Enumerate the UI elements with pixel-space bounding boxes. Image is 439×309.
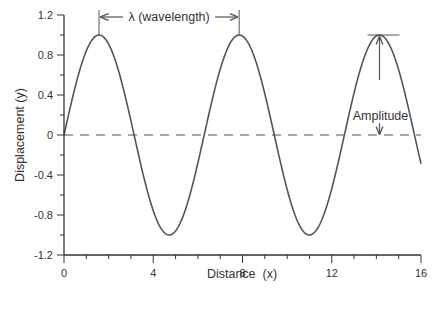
- y-tick-label: 0: [47, 129, 53, 141]
- axes: 1.20.80.40-0.4-0.8-1.20481216: [34, 9, 427, 279]
- y-axis-title: Displacement (y): [13, 88, 27, 182]
- wave-chart: 1.20.80.40-0.4-0.8-1.20481216 λ (wavelen…: [0, 0, 439, 309]
- x-tick-label: 0: [61, 267, 67, 279]
- y-tick-label: -0.8: [34, 209, 53, 221]
- y-tick-label: 0.8: [38, 49, 53, 61]
- amplitude-label: Amplitude: [353, 109, 409, 123]
- wavelength-label: λ (wavelength): [128, 10, 209, 24]
- plot-area: [64, 35, 421, 235]
- x-tick-label: 12: [326, 267, 338, 279]
- x-tick-label: 16: [415, 267, 427, 279]
- annotations: λ (wavelength)Amplitude: [99, 10, 408, 134]
- y-tick-label: -0.4: [34, 169, 53, 181]
- x-tick-label: 4: [150, 267, 156, 279]
- x-axis-title: Distance (x): [207, 267, 277, 281]
- y-tick-label: -1.2: [34, 249, 53, 261]
- y-tick-label: 0.4: [38, 89, 53, 101]
- y-tick-label: 1.2: [38, 9, 53, 21]
